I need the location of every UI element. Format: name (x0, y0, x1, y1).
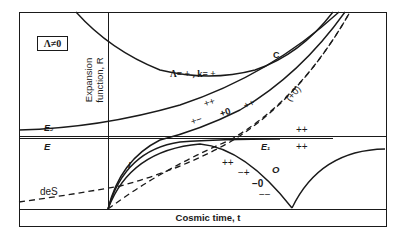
curve-O-second (292, 149, 385, 208)
y-axis-label-line1: Expansion (83, 58, 94, 102)
y-axis-label-line2: function, R (94, 57, 105, 103)
outer-frame (20, 13, 387, 227)
label-pm: +− (189, 113, 203, 127)
label-plus0-paren: (+0) (283, 83, 303, 103)
label-p0: +0 (218, 105, 232, 119)
curve-E1 (108, 139, 280, 209)
label-E2: E₂ (44, 123, 54, 133)
label-pp-e1-below: ++ (296, 141, 308, 152)
label-pp-o: ++ (222, 157, 234, 168)
label-lambda-k: Λ= + , k= + (170, 69, 216, 79)
label-pp-mid: ++ (242, 96, 257, 111)
label-mm: −− (259, 189, 271, 200)
label-O: O (272, 164, 280, 175)
label-m0: −0 (252, 178, 264, 189)
label-deS: deS (40, 186, 58, 197)
label-E1: E₁ (261, 142, 270, 152)
curve-deS-dashed (19, 12, 350, 202)
label-I: I (128, 159, 131, 170)
label-mp: −+ (238, 167, 250, 178)
label-E: E (44, 141, 51, 152)
x-axis-label: Cosmic time, t (176, 212, 242, 223)
label-C: C (273, 50, 280, 60)
lambda-box-label: Λ≠0 (44, 38, 62, 49)
cosmology-diagram: Λ≠0 Expansion function, R C Λ= + , k= + … (0, 0, 400, 238)
label-pp-upper: ++ (202, 95, 216, 109)
label-pp-e1-above: ++ (296, 124, 308, 135)
curve-C (76, 12, 333, 76)
